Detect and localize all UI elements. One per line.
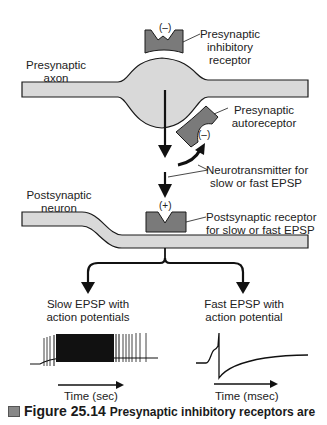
inhibitory-receptor bbox=[145, 30, 183, 53]
caption-text: Presynaptic inhibitory receptors are bbox=[110, 405, 315, 419]
slow-epsp-label: Slow EPSP withaction potentials bbox=[44, 298, 132, 324]
figure-number: Figure 25.14 bbox=[24, 403, 106, 419]
postsynaptic-neuron-label: Postsynapticneuron bbox=[24, 189, 94, 215]
inhibitory-receptor-label: Presynapticinhibitoryreceptor bbox=[198, 28, 262, 67]
postsynaptic-receptor-label: Postsynaptic receptorfor slow or fast EP… bbox=[206, 211, 310, 237]
fast-epsp-label: Fast EPSP withaction potential bbox=[200, 298, 288, 324]
neurotransmitter-label: Neurotransmitter forslow or fast EPSP bbox=[206, 164, 306, 190]
figure-caption: Figure 25.14Presynaptic inhibitory recep… bbox=[8, 403, 315, 419]
fast-epsp-trace bbox=[196, 333, 308, 378]
inhibitory-sign: (–) bbox=[159, 22, 171, 33]
postsynaptic-receptor bbox=[146, 212, 186, 232]
time-sec-label: Time (sec) bbox=[64, 390, 118, 403]
autoreceptor-label: Presynapticautoreceptor bbox=[228, 104, 300, 130]
presynaptic-axon-label: Presynapticaxon bbox=[26, 59, 86, 85]
postsynaptic-sign: (+) bbox=[159, 200, 172, 211]
time-msec-label: Time (msec) bbox=[215, 390, 278, 403]
slow-epsp-trace bbox=[30, 333, 158, 366]
autoreceptor-sign: (–) bbox=[198, 129, 210, 140]
caption-square-icon bbox=[8, 406, 20, 417]
